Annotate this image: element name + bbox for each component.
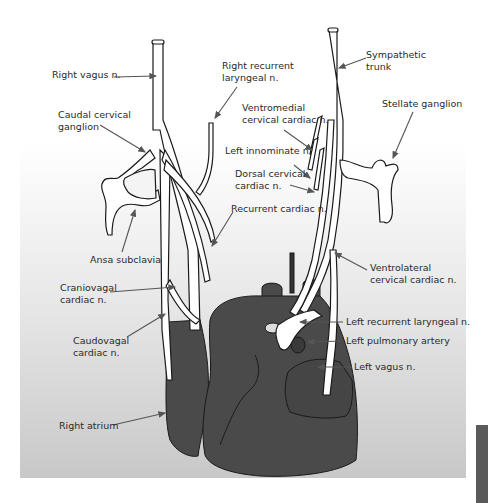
label-caudovagal-cardiac: Caudovagal cardiac n. (73, 335, 129, 359)
label-left-pulmonary-artery: Left pulmonary artery (346, 335, 450, 347)
label-right-atrium: Right atrium (59, 420, 118, 432)
label-sympathetic-trunk: Sympathetic trunk (366, 49, 426, 73)
cardiac-innervation-figure: Right vagus n. Right recurrent laryngeal… (0, 0, 488, 503)
label-right-vagus: Right vagus n. (52, 69, 121, 81)
label-caudal-cervical-ganglion: Caudal cervical ganglion (58, 109, 131, 133)
page-edge-tab (476, 425, 488, 503)
label-ansa-subclavia: Ansa subclavia (90, 254, 161, 266)
label-dorsal-cervical-cardiac: Dorsal cervical cardiac n. (235, 168, 305, 192)
label-right-recurrent-laryngeal: Right recurrent laryngeal n. (222, 60, 294, 84)
label-stellate-ganglion: Stellate ganglion (382, 98, 462, 110)
label-ventromedial-cervical-cardiac: Ventromedial cervical cardiac n. (242, 102, 329, 126)
label-recurrent-cardiac: Recurrent cardiac n. (231, 203, 327, 215)
label-ventrolateral-cervical-cardiac: Ventrolateral cervical cardiac n. (370, 262, 457, 286)
label-left-vagus: Left vagus n. (354, 361, 415, 373)
label-craniovagal-cardiac: Craniovagal cardiac n. (60, 282, 117, 306)
label-left-innominate: Left innominate n. (225, 145, 312, 157)
label-left-recurrent-laryngeal: Left recurrent laryngeal n. (346, 316, 470, 328)
